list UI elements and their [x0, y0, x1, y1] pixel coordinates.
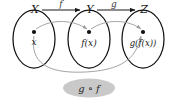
map-label-f: f: [58, 0, 64, 9]
element-label-fx: f(x): [80, 38, 97, 48]
element-dot-x: [32, 30, 36, 34]
set-label-x: X: [30, 3, 40, 16]
element-label-gfx: g(f(x)): [130, 38, 157, 48]
function-composition-figure: X Y Z f g x f(x) g(f(x)) g ∘ f: [0, 0, 170, 106]
map-label-g: g: [111, 0, 117, 9]
element-label-x: x: [31, 37, 36, 47]
set-label-z: Z: [139, 3, 148, 16]
inner-arc-g: [91, 21, 141, 29]
diagram-canvas: X Y Z f g x f(x) g(f(x)) g ∘ f: [0, 0, 170, 106]
inner-arc-f: [36, 21, 87, 29]
composition-label: g ∘ f: [78, 83, 102, 94]
set-label-y: Y: [86, 3, 95, 16]
element-dot-fx: [87, 30, 91, 34]
element-dot-gfx: [141, 30, 145, 34]
